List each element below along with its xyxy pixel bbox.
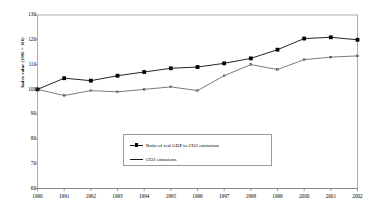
plot-area (0, 0, 376, 213)
data-series-group (36, 35, 360, 96)
legend-item-co2-emissions: CO2 emissions (130, 156, 176, 162)
legend-label-co2-emissions: CO2 emissions (146, 157, 176, 162)
chart-container: Index value (1990 = 100) 607080901001101… (0, 0, 376, 213)
legend-marker-line-icon (130, 156, 143, 162)
legend-label-gdp-co2-ratio: Ratio of real GDP to CO2 emissions (146, 143, 219, 148)
legend-marker-square-icon (130, 142, 143, 148)
legend-item-gdp-co2-ratio: Ratio of real GDP to CO2 emissions (130, 142, 219, 148)
chart-legend: Ratio of real GDP to CO2 emissions CO2 e… (123, 134, 272, 166)
